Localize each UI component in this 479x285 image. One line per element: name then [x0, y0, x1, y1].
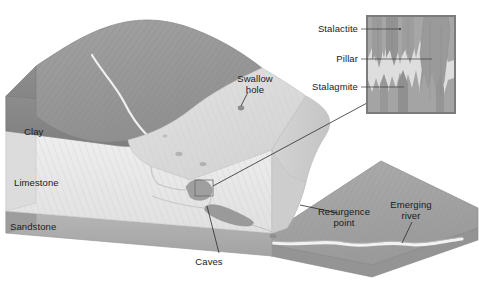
callout-label-swallow-hole-line1: Swallow — [237, 73, 273, 84]
callout-label-caves: Caves — [195, 256, 223, 267]
strata-label-limestone: Limestone — [14, 177, 59, 188]
resurgence-point-marker — [270, 234, 277, 238]
callout-label-swallow-hole-line2: hole — [246, 84, 264, 95]
sink-hole-c — [163, 134, 168, 137]
diagram-canvas: Clay Limestone Sandstone Swallow hole Ca… — [0, 0, 479, 285]
stalactite-leader-dot — [399, 28, 401, 30]
callout-label-resurgence-line1: Resurgence — [318, 206, 370, 217]
callout-label-emerging-river-line2: river — [402, 210, 421, 221]
strata-label-clay: Clay — [24, 126, 44, 137]
callout-label-resurgence-line2: point — [333, 217, 354, 228]
resurgence-spring — [270, 234, 277, 238]
inset-label-pillar: Pillar — [336, 53, 358, 64]
inset-label-stalactite: Stalactite — [318, 23, 358, 34]
swallow-hole-primary — [238, 106, 244, 111]
cave-detail-inset — [367, 16, 455, 113]
strata-label-sandstone: Sandstone — [10, 221, 56, 232]
cave-chamber-upper — [186, 180, 212, 201]
callout-label-emerging-river-line1: Emerging — [390, 199, 431, 210]
sink-hole-a — [175, 152, 182, 156]
inset-label-stalagmite: Stalagmite — [312, 81, 358, 92]
karst-block-diagram: Clay Limestone Sandstone Swallow hole Ca… — [0, 0, 479, 285]
sink-hole-b — [200, 162, 207, 166]
inset-contents — [368, 17, 454, 112]
